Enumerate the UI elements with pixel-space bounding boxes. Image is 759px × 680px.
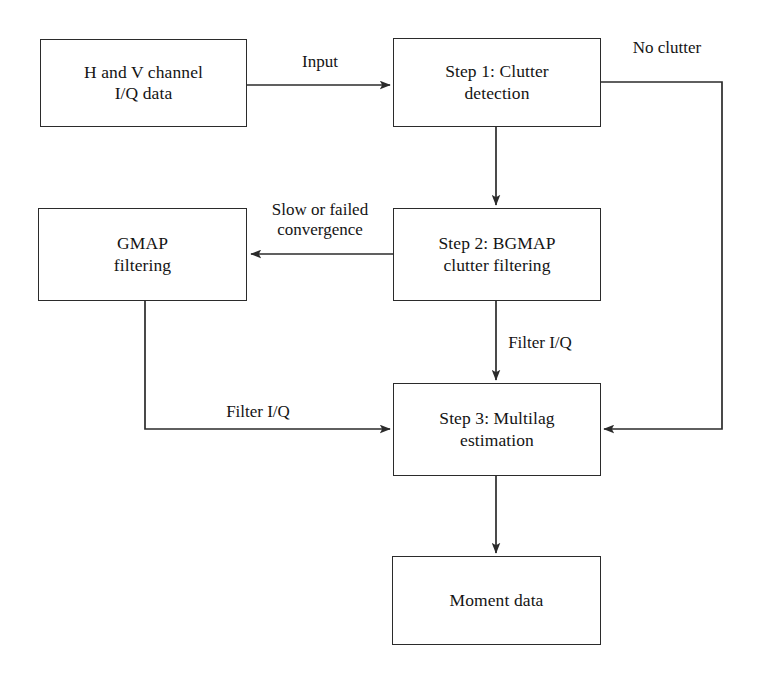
edge-label-slow-or-failed-convergence: Slow or failed convergence [272, 200, 368, 241]
edge-label-filter-iq-step2: Filter I/Q [508, 333, 572, 353]
edge-label-no-clutter: No clutter [633, 38, 701, 58]
node-step3-multilag-estimation[interactable]: Step 3: Multilag estimation [393, 383, 601, 476]
node-step2-bgmap-clutter-filtering[interactable]: Step 2: BGMAP clutter filtering [393, 208, 601, 301]
node-step1-clutter-detection[interactable]: Step 1: Clutter detection [393, 38, 601, 127]
connector-no-clutter-to-step3 [601, 82, 722, 429]
node-gmap-filtering[interactable]: GMAP filtering [38, 208, 247, 301]
edge-label-filter-iq-gmap: Filter I/Q [226, 402, 290, 422]
edge-label-input: Input [302, 52, 338, 72]
flowchart-canvas: H and V channel I/Q data Step 1: Clutter… [0, 0, 759, 680]
node-moment-data[interactable]: Moment data [392, 556, 601, 645]
node-input-data[interactable]: H and V channel I/Q data [40, 39, 247, 127]
